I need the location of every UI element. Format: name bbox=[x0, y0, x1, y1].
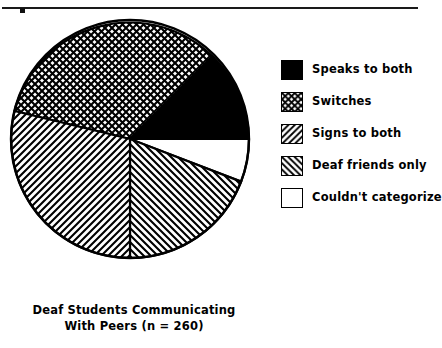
caption-line-1: Deaf Students Communicating bbox=[32, 303, 235, 317]
legend-item-deaf-friends-only[interactable]: Deaf friends only bbox=[281, 155, 422, 176]
legend-label-switches: Switches bbox=[312, 96, 372, 108]
cross-hatch-pattern-icon bbox=[282, 93, 302, 111]
caption-line-2: With Peers (n = 260) bbox=[0, 318, 268, 334]
legend-label-deaf-friends-only: Deaf friends only bbox=[312, 160, 427, 172]
legend-item-switches[interactable]: Switches bbox=[281, 91, 422, 112]
legend-item-couldnt-categorize[interactable]: Couldn't categorize bbox=[281, 187, 422, 208]
legend-label-signs-to-both: Signs to both bbox=[312, 128, 401, 140]
chart-caption: Deaf Students Communicating With Peers (… bbox=[0, 302, 268, 334]
legend-label-couldnt-categorize: Couldn't categorize bbox=[312, 192, 442, 204]
pie-chart-svg bbox=[0, 0, 270, 280]
legend-swatch-solid-black-icon bbox=[281, 60, 303, 80]
pie-chart bbox=[0, 0, 270, 280]
legend-item-signs-to-both[interactable]: Signs to both bbox=[281, 123, 422, 144]
diagonal-up-pattern-icon bbox=[282, 125, 302, 143]
legend-swatch-diagonal-up-icon bbox=[281, 124, 303, 144]
legend-item-speaks-to-both[interactable]: Speaks to both bbox=[281, 59, 422, 80]
legend-swatch-cross-hatch-icon bbox=[281, 92, 303, 112]
diagonal-down-pattern-icon bbox=[282, 157, 302, 175]
legend-swatch-empty-white-icon bbox=[281, 188, 303, 208]
legend-swatch-diagonal-down-icon bbox=[281, 156, 303, 176]
chart-legend: Speaks to both Switches Signs to both bbox=[281, 59, 422, 208]
legend-label-speaks-to-both: Speaks to both bbox=[312, 64, 413, 76]
